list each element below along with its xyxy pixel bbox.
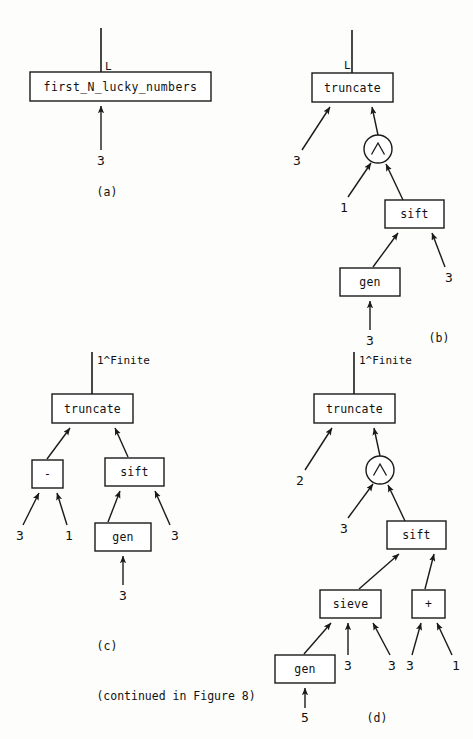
panel-label-d: (d) xyxy=(367,711,388,725)
edge-b-sift-to-op xyxy=(386,164,403,200)
box-b-gen-label: gen xyxy=(359,275,380,289)
edge-b-op-to-truncate xyxy=(372,107,378,135)
edge-b-1-to-op xyxy=(348,163,371,197)
operator-circle-b[interactable] xyxy=(364,135,392,163)
box-first-n-lucky-numbers-label: first_N_lucky_numbers xyxy=(44,80,198,94)
edge-d-1-to-plus xyxy=(437,623,452,655)
input-number-b-1: 3 xyxy=(293,153,301,168)
output-port-label-d: 1^Finite xyxy=(359,354,412,367)
input-number-d-6: 1 xyxy=(452,658,460,673)
box-d-sieve-label: sieve xyxy=(333,597,369,611)
box-c-minus-label: - xyxy=(44,467,51,481)
input-number-c-4: 3 xyxy=(119,588,127,603)
box-d-plus-label: + xyxy=(425,597,432,611)
edge-b-3-to-truncate xyxy=(302,107,330,150)
box-b-truncate-label: truncate xyxy=(324,81,381,95)
edge-b-3-to-sift xyxy=(432,233,445,267)
figure-canvas: L first_N_lucky_numbers 3 (a) L truncate… xyxy=(0,0,473,739)
box-b-sift-label: sift xyxy=(400,207,429,221)
panel-b: L truncate 3 1 sift 3 gen 3 (b) xyxy=(293,30,453,348)
input-number-c-3: 3 xyxy=(171,528,179,543)
input-number-d-4: 3 xyxy=(388,658,396,673)
input-number-a-1: 3 xyxy=(97,153,105,168)
box-c-truncate-label: truncate xyxy=(64,402,121,416)
input-number-d-7: 5 xyxy=(301,710,309,725)
input-number-d-1: 2 xyxy=(296,473,304,488)
edge-d-plus-to-sift xyxy=(425,554,434,589)
panel-a: L first_N_lucky_numbers 3 (a) xyxy=(30,28,211,199)
panel-d: 1^Finite truncate 2 3 sift sieve + 3 3 xyxy=(275,352,460,725)
panel-label-c: (c) xyxy=(97,639,118,653)
edge-d-3-to-plus xyxy=(412,623,421,655)
box-c-sift-label: sift xyxy=(120,465,149,479)
edge-d-2-to-truncate xyxy=(305,428,332,470)
input-number-d-3: 3 xyxy=(344,658,352,673)
box-d-gen-label: gen xyxy=(294,662,315,676)
edge-d-3-to-sieve-right xyxy=(373,623,390,655)
box-d-sift-label: sift xyxy=(402,528,431,542)
edge-c-3-to-minus xyxy=(23,493,39,525)
figure-caption: (continued in Figure 8) xyxy=(96,689,255,703)
edge-d-sieve-to-sift xyxy=(359,554,399,589)
operator-circle-d[interactable] xyxy=(366,456,394,484)
edge-d-op-to-truncate xyxy=(374,428,380,456)
edge-c-3-to-sift xyxy=(155,491,170,525)
edge-c-1-to-minus xyxy=(57,493,67,525)
input-number-c-1: 3 xyxy=(16,528,24,543)
edge-d-gen-to-sieve xyxy=(304,623,331,654)
box-d-truncate-label: truncate xyxy=(326,402,383,416)
box-c-gen-label: gen xyxy=(112,530,133,544)
edge-c-sift-to-truncate xyxy=(115,428,128,457)
output-port-label-c: 1^Finite xyxy=(97,354,150,367)
edge-b-gen-to-sift xyxy=(373,233,398,267)
edge-d-3-to-op xyxy=(348,484,373,518)
panel-label-b: (b) xyxy=(429,331,450,345)
panel-c: 1^Finite truncate - sift 3 1 3 gen 3 (c) xyxy=(16,352,179,653)
input-number-b-3: 3 xyxy=(445,270,453,285)
edge-c-gen-to-sift xyxy=(108,491,120,522)
edge-d-sift-to-op xyxy=(388,485,405,521)
panel-label-a: (a) xyxy=(97,185,118,199)
input-number-b-2: 1 xyxy=(340,200,348,215)
output-port-label-a: L xyxy=(105,60,112,73)
input-number-b-4: 3 xyxy=(366,333,374,348)
output-port-label-b: L xyxy=(344,59,351,72)
edge-c-minus-to-truncate xyxy=(47,428,70,459)
input-number-c-2: 1 xyxy=(65,528,73,543)
input-number-d-2: 3 xyxy=(340,521,348,536)
input-number-d-5: 3 xyxy=(406,658,414,673)
